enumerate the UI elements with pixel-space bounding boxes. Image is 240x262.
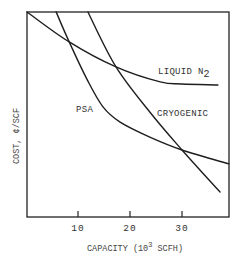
x-tick-label: 20 (123, 223, 136, 234)
x-tick-label: 30 (175, 223, 188, 234)
curve-psa (56, 12, 229, 164)
series-label-cryogenic: CRYOGENIC (157, 109, 209, 119)
y-axis-label: COST, ¢/SCF (12, 108, 22, 164)
cost-vs-capacity-chart: 102030 PSA CRYOGENIC LIQUID N2 CAPACITY … (0, 0, 240, 262)
curve-cryogenic (88, 12, 220, 192)
x-axis-label: CAPACITY (103 SCFH) (87, 241, 183, 254)
series-label-liquid-n2: LIQUID N2 (158, 67, 210, 80)
x-tick-label: 10 (71, 223, 84, 234)
series-label-psa: PSA (76, 105, 93, 115)
x-axis-ticks: 102030 (71, 211, 188, 234)
curves (27, 12, 229, 192)
